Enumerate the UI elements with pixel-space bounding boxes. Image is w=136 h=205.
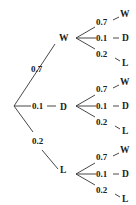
prob-w-l: 0.2: [96, 49, 108, 59]
branch-root-w: [14, 44, 55, 106]
outcome-l-l: L: [122, 194, 128, 204]
branch-l-w: [76, 163, 95, 174]
subtree-w: 0.7 0.1 0.2 W D L: [76, 9, 130, 68]
dash-w-l: [115, 58, 120, 61]
subtree-d: 0.7 0.1 0.2 W D L: [76, 77, 130, 136]
prob-w-w: 0.7: [96, 17, 108, 27]
branch-d-w: [76, 95, 95, 106]
prob-l-w: 0.7: [96, 152, 108, 162]
dash-d-l: [115, 126, 120, 129]
branch-root-l-b: [42, 150, 58, 169]
outcome-l-d: D: [122, 169, 129, 179]
prob-root-d: 0.1: [32, 101, 44, 111]
root-branches: 0.7 0.1 0.2 W D L: [14, 33, 69, 175]
dash-l-w: [113, 153, 119, 156]
branch-w-w: [76, 27, 95, 38]
prob-root-w: 0.7: [31, 64, 43, 74]
node-l: L: [60, 165, 66, 175]
prob-w-d: 0.1: [96, 33, 108, 43]
node-d: D: [60, 102, 67, 112]
prob-root-l: 0.2: [32, 136, 44, 146]
outcome-w-w: W: [120, 9, 130, 19]
branch-d-l: [76, 106, 95, 117]
outcome-d-d: D: [122, 101, 129, 111]
outcome-d-l: L: [122, 126, 128, 136]
prob-d-d: 0.1: [96, 101, 108, 111]
outcome-d-w: W: [120, 77, 130, 87]
branch-w-l: [76, 38, 95, 49]
outcome-l-w: W: [120, 145, 130, 155]
dash-d-w: [113, 85, 119, 88]
subtree-l: 0.7 0.1 0.2 W D L: [76, 145, 130, 204]
branch-l-l: [76, 174, 95, 185]
prob-l-l: 0.2: [96, 185, 108, 195]
dash-w-w: [113, 17, 119, 20]
outcome-w-l: L: [122, 58, 128, 68]
prob-d-w: 0.7: [96, 84, 108, 94]
dash-l-l: [115, 194, 120, 197]
outcome-w-d: D: [122, 33, 129, 43]
node-w: W: [59, 33, 69, 43]
branch-root-l-a: [14, 106, 33, 132]
prob-d-l: 0.2: [96, 117, 108, 127]
probability-tree: 0.7 0.1 0.2 W D L 0.7 0.1 0.2 W D L 0.7 …: [0, 0, 136, 205]
prob-l-d: 0.1: [96, 169, 108, 179]
